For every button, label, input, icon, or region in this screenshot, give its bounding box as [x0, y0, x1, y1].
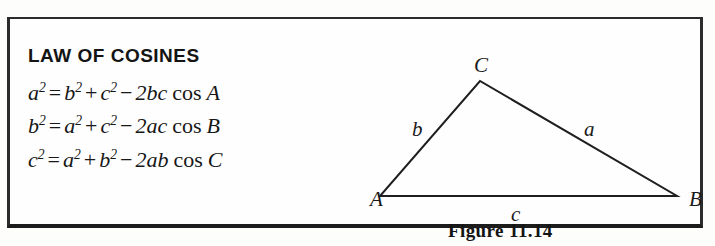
formula-coefficient: 2 [135, 113, 146, 138]
cosine-operator: cos [167, 113, 201, 138]
vertex-label-B: B [689, 187, 702, 212]
equals-sign: = [46, 80, 64, 105]
triangle-figure: C A B b a c Figure 11.14 [362, 39, 707, 245]
formula-product: bc [146, 80, 167, 105]
figure-caption: Figure 11.14 [448, 220, 553, 242]
formula-term2-base: c [100, 80, 110, 105]
plus-sign: + [81, 147, 99, 172]
vertex-label-C: C [474, 53, 488, 78]
bordered-box: LAW OF COSINES a2=b2+c2−2bccosA b2=a2+c2… [7, 17, 703, 228]
formula-term1-base: a [63, 147, 74, 172]
figure-panel: LAW OF COSINES a2=b2+c2−2bccosA b2=a2+c2… [0, 0, 715, 246]
cosine-operator: cos [167, 80, 201, 105]
formula-angle: A [202, 80, 220, 105]
formula-lhs-exponent: 2 [39, 113, 46, 128]
equals-sign: = [45, 147, 63, 172]
formula-row: a2=b2+c2−2bccosA [28, 76, 358, 109]
minus-sign: − [117, 80, 135, 105]
formula-lhs-exponent: 2 [38, 147, 45, 162]
minus-sign: − [117, 147, 135, 172]
side-label-b: b [412, 117, 423, 142]
formula-term1-base: a [64, 113, 75, 138]
formula-product: ab [146, 147, 168, 172]
cosine-operator: cos [168, 147, 202, 172]
formula-lhs-base: c [28, 147, 38, 172]
formula-product: ac [146, 113, 167, 138]
formula-row: c2=a2+b2−2abcosC [28, 143, 358, 176]
formula-row: b2=a2+c2−2accosB [28, 109, 358, 142]
formula-lhs-exponent: 2 [39, 80, 46, 95]
plus-sign: + [82, 80, 100, 105]
formula-angle: B [202, 113, 220, 138]
formula-coefficient: 2 [135, 147, 146, 172]
minus-sign: − [117, 113, 135, 138]
formula-angle: C [203, 147, 223, 172]
triangle-outline [380, 81, 677, 196]
formula-term1-base: b [64, 80, 75, 105]
side-label-a: a [584, 117, 595, 142]
formula-lhs-base: b [28, 113, 39, 138]
formula-term2-base: c [100, 113, 110, 138]
formula-term2-base: b [99, 147, 110, 172]
plus-sign: + [82, 113, 100, 138]
formula-coefficient: 2 [135, 80, 146, 105]
formula-lhs-base: a [28, 80, 39, 105]
equals-sign: = [46, 113, 64, 138]
formula-term1-exponent: 2 [74, 147, 81, 162]
page-title: LAW OF COSINES [28, 45, 358, 67]
vertex-label-A: A [370, 187, 383, 212]
law-of-cosines-block: LAW OF COSINES a2=b2+c2−2bccosA b2=a2+c2… [28, 45, 358, 176]
